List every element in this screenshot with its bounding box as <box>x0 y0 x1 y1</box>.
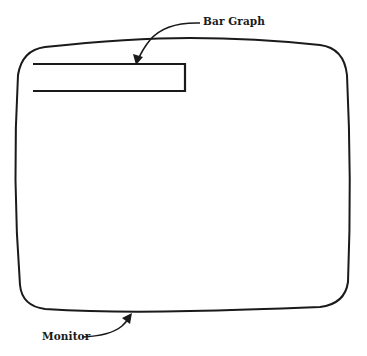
bar-graph-shape <box>33 64 185 91</box>
monitor-diagram <box>0 0 367 356</box>
bar-graph-label: Bar Graph <box>203 15 265 27</box>
monitor-outline <box>15 38 349 312</box>
bar-graph-leader-line <box>138 23 200 60</box>
monitor-arrowhead-icon <box>122 313 132 324</box>
monitor-label: Monitor <box>42 330 90 342</box>
